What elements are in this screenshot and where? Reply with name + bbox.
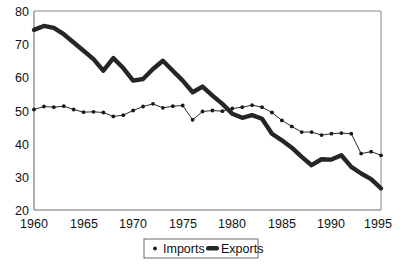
data-point-imports: [220, 109, 224, 113]
y-tick-label: 40: [15, 138, 29, 152]
data-point-imports: [32, 108, 36, 112]
y-tick-label: 30: [15, 171, 29, 185]
data-point-imports: [349, 132, 353, 136]
data-point-imports: [359, 152, 363, 156]
data-point-imports: [369, 150, 373, 154]
data-point-imports: [42, 105, 46, 109]
x-tick-label: 1980: [218, 217, 246, 231]
data-point-imports: [290, 125, 294, 129]
data-point-imports: [121, 113, 125, 117]
data-point-imports: [191, 118, 195, 122]
data-point-imports: [379, 153, 383, 157]
chart-legend: Imports Exports: [144, 239, 263, 258]
legend-marker-exports-icon: [206, 246, 219, 251]
data-point-imports: [201, 110, 205, 114]
data-point-imports: [211, 109, 215, 113]
line-chart-figure: 80 70 60 50 40 30 20 1960 1965 1970 1975…: [0, 0, 403, 264]
x-tick-label: 1960: [20, 217, 48, 231]
x-tick-label: 1990: [317, 217, 345, 231]
data-point-imports: [310, 130, 314, 134]
data-point-imports: [62, 104, 66, 108]
data-point-imports: [240, 105, 244, 109]
data-point-imports: [52, 105, 56, 109]
data-point-imports: [330, 132, 334, 136]
x-tick-label: 1975: [169, 217, 197, 231]
data-point-imports: [320, 133, 324, 137]
y-tick-label: 80: [15, 5, 29, 19]
data-point-imports: [161, 106, 165, 110]
data-point-imports: [171, 104, 175, 108]
data-point-imports: [280, 119, 284, 123]
legend-label-imports: Imports: [163, 242, 205, 256]
x-tick-label: 1965: [70, 217, 98, 231]
data-point-imports: [250, 103, 254, 107]
data-point-imports: [72, 108, 76, 112]
data-point-imports: [230, 107, 234, 111]
data-point-imports: [131, 109, 135, 113]
data-point-imports: [92, 110, 96, 114]
x-tick-label: 1970: [119, 217, 147, 231]
data-point-imports: [260, 105, 264, 109]
data-point-imports: [270, 111, 274, 115]
y-tick-label: 50: [15, 105, 29, 119]
legend-label-exports: Exports: [221, 242, 263, 256]
data-point-imports: [141, 105, 145, 109]
data-point-imports: [151, 102, 155, 106]
chart-container: 80 70 60 50 40 30 20 1960 1965 1970 1975…: [0, 0, 403, 264]
data-point-imports: [102, 111, 106, 115]
data-point-imports: [82, 110, 86, 114]
x-tick-label: 1985: [268, 217, 296, 231]
data-point-imports: [300, 130, 304, 134]
y-tick-label: 60: [15, 71, 29, 85]
y-tick-label: 20: [15, 204, 29, 218]
data-point-imports: [339, 131, 343, 135]
data-point-imports: [111, 115, 115, 119]
legend-marker-imports-icon: [153, 247, 157, 251]
data-point-imports: [181, 104, 185, 108]
y-tick-label: 70: [15, 38, 29, 52]
x-tick-label: 1995: [364, 217, 392, 231]
